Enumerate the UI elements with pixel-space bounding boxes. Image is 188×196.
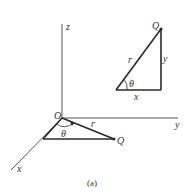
upper-q-point: [160, 28, 163, 31]
upper-r-line: [116, 29, 161, 90]
upper-x-label: x: [133, 91, 139, 102]
lower-q-point: [113, 138, 116, 141]
upper-q-label: Q: [152, 20, 160, 31]
lower-r-line: [62, 118, 114, 139]
lower-x-segment: [43, 118, 62, 139]
figure-caption: (a): [87, 178, 97, 188]
lower-r-label: r: [91, 118, 95, 129]
upper-angle-arc: [124, 79, 127, 90]
lower-q-label: Q: [117, 135, 125, 146]
y-axis-label: y: [174, 119, 180, 130]
upper-theta-label: θ: [129, 78, 134, 89]
lower-theta-label: θ: [61, 128, 66, 139]
x-axis-label: x: [16, 163, 22, 174]
upper-triangle: Q r θ x y: [116, 20, 168, 102]
polar-coordinates-diagram: z y x O Q r θ Q r θ x y (a): [0, 0, 188, 196]
upper-r-label: r: [128, 54, 132, 65]
upper-y-label: y: [162, 53, 168, 64]
z-axis-label: z: [65, 21, 70, 32]
lower-triangle: Q r θ: [43, 118, 125, 146]
